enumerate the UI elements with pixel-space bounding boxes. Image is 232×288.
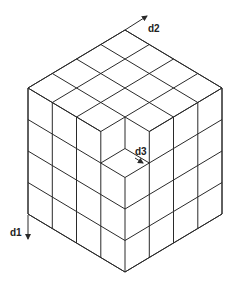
grid-line bbox=[28, 88, 101, 132]
cube-diagram: d1 d2 d3 bbox=[0, 0, 232, 288]
arrow-up-right-icon bbox=[125, 16, 147, 30]
axis-d2: d2 bbox=[125, 16, 160, 34]
axis-label-d3: d3 bbox=[135, 146, 147, 157]
grid-line bbox=[149, 88, 222, 132]
grid-line bbox=[101, 149, 125, 164]
axis-label-d2: d2 bbox=[148, 23, 160, 34]
axis-d1: d1 bbox=[10, 215, 28, 239]
cube-grid-lines bbox=[28, 30, 222, 272]
axis-label-d1: d1 bbox=[10, 227, 22, 238]
